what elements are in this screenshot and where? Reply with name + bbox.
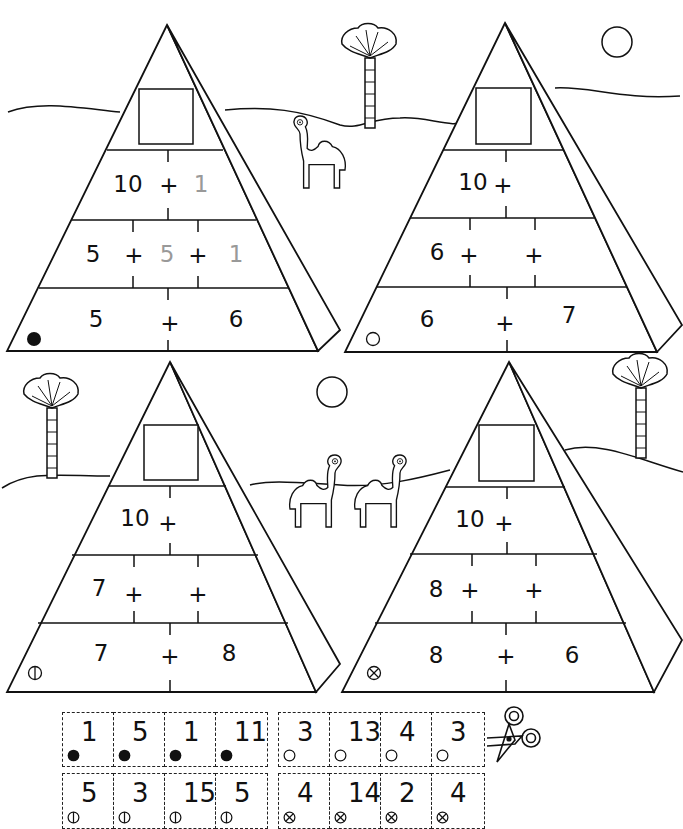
card-value: 3 (450, 719, 467, 745)
card-value: 15 (183, 780, 216, 806)
row1-left: 10 (113, 173, 142, 196)
row3-right: 6 (565, 644, 580, 667)
sun-icon (602, 27, 632, 57)
filled-circle-icon (67, 749, 80, 762)
card[interactable]: 11 (215, 712, 268, 767)
card-value: 13 (348, 719, 381, 745)
sun-icon (317, 377, 347, 407)
plus-sign: + (188, 583, 207, 606)
camel-icon (294, 116, 345, 188)
empty-circle-icon (283, 749, 296, 762)
row2-a: 7 (92, 577, 107, 600)
card[interactable]: 5 (62, 773, 114, 829)
card-value: 5 (81, 780, 98, 806)
camel-icon (355, 455, 406, 527)
empty-circle-icon (385, 749, 398, 762)
vertical-bar-circle-icon (220, 811, 233, 824)
filled-circle-icon (169, 749, 182, 762)
card-value: 4 (297, 780, 314, 806)
card-value: 4 (450, 780, 467, 806)
answer-box[interactable] (144, 425, 198, 480)
plus-sign: + (160, 312, 179, 335)
plus-sign: + (495, 312, 514, 335)
row3-right: 7 (562, 304, 577, 327)
row1-left: 10 (120, 507, 149, 530)
answer-box[interactable] (479, 425, 534, 481)
answer-box[interactable] (139, 89, 193, 144)
palm-tree-icon (342, 24, 397, 129)
camel-icon (290, 455, 341, 527)
row2-c-answer[interactable]: 1 (229, 243, 244, 266)
answer-box[interactable] (476, 88, 531, 144)
card-value: 3 (132, 780, 149, 806)
filled-circle-icon (118, 749, 131, 762)
row2-a: 6 (430, 241, 445, 264)
card[interactable]: 13 (329, 712, 381, 767)
row2-a: 8 (429, 578, 444, 601)
card[interactable]: 2 (380, 773, 432, 829)
row1-right-answer[interactable]: 1 (194, 173, 209, 196)
row3-left: 8 (429, 644, 444, 667)
card[interactable]: 14 (329, 773, 381, 829)
card[interactable]: 1 (164, 712, 216, 767)
card[interactable]: 4 (278, 773, 330, 829)
empty-circle-icon (334, 749, 347, 762)
card-value: 4 (399, 719, 416, 745)
vertical-bar-circle-icon (118, 811, 131, 824)
plus-sign: + (459, 244, 478, 267)
plus-sign: + (460, 579, 479, 602)
card-value: 5 (132, 719, 149, 745)
row2-b-answer[interactable]: 5 (160, 243, 175, 266)
plus-sign: + (494, 512, 513, 535)
row3-right: 6 (229, 308, 244, 331)
row3-left: 5 (89, 308, 104, 331)
x-circle-icon (283, 811, 296, 824)
plus-sign: + (524, 579, 543, 602)
vertical-bar-circle-icon (67, 811, 80, 824)
card[interactable]: 3 (431, 712, 485, 767)
vertical-bar-circle-icon (169, 811, 182, 824)
plus-sign: + (188, 244, 207, 267)
filled-circle-icon (27, 332, 41, 346)
card-value: 3 (297, 719, 314, 745)
card[interactable]: 5 (215, 773, 268, 829)
card-value: 5 (234, 780, 251, 806)
plus-sign: + (124, 583, 143, 606)
row3-left: 6 (420, 308, 435, 331)
row1-left: 10 (455, 508, 484, 531)
row3-left: 7 (94, 642, 109, 665)
card[interactable]: 3 (113, 773, 165, 829)
card[interactable]: 3 (278, 712, 330, 767)
card-value: 1 (81, 719, 98, 745)
card[interactable]: 15 (164, 773, 216, 829)
plus-sign: + (160, 645, 179, 668)
palm-tree-icon (24, 374, 79, 479)
x-circle-icon (436, 811, 449, 824)
card[interactable]: 1 (62, 712, 114, 767)
plus-sign: + (493, 174, 512, 197)
row1-left: 10 (458, 171, 487, 194)
card-value: 2 (399, 780, 416, 806)
x-circle-icon (385, 811, 398, 824)
card[interactable]: 4 (431, 773, 485, 829)
row3-right: 8 (222, 642, 237, 665)
plus-sign: + (124, 244, 143, 267)
plus-sign: + (496, 645, 515, 668)
card-value: 11 (234, 719, 267, 745)
filled-circle-icon (220, 749, 233, 762)
plus-sign: + (158, 512, 177, 535)
empty-circle-icon (436, 749, 449, 762)
card-value: 14 (348, 780, 381, 806)
palm-tree-icon (613, 354, 668, 459)
scissors-icon (487, 707, 540, 762)
row2-a: 5 (86, 243, 101, 266)
plus-sign: + (159, 174, 178, 197)
card-value: 1 (183, 719, 200, 745)
plus-sign: + (524, 244, 543, 267)
card[interactable]: 4 (380, 712, 432, 767)
pyramid-2 (345, 23, 682, 352)
card[interactable]: 5 (113, 712, 165, 767)
x-circle-icon (334, 811, 347, 824)
